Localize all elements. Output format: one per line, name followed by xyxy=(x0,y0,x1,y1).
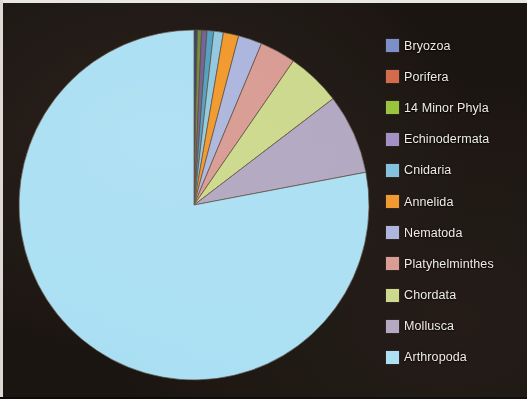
legend-item-label: Platyhelminthes xyxy=(404,257,494,271)
legend-color-swatch xyxy=(386,164,399,177)
legend-item[interactable]: Platyhelminthes xyxy=(386,248,527,279)
frame-edge-top xyxy=(0,0,527,3)
legend-item[interactable]: Nematoda xyxy=(386,217,527,248)
chart-figure: BryozoaPorifera14 Minor PhylaEchinoderma… xyxy=(0,0,527,399)
legend-color-swatch xyxy=(386,70,399,83)
legend-item-label: Cnidaria xyxy=(404,163,451,177)
chart-legend: BryozoaPorifera14 Minor PhylaEchinoderma… xyxy=(386,30,527,373)
pie-chart-svg xyxy=(8,16,378,388)
legend-color-swatch xyxy=(386,226,399,239)
legend-item[interactable]: Annelida xyxy=(386,186,527,217)
legend-color-swatch xyxy=(386,195,399,208)
legend-color-swatch xyxy=(386,351,399,364)
pie-chart xyxy=(8,16,378,388)
legend-item-label: Echinodermata xyxy=(404,132,489,146)
legend-item[interactable]: Chordata xyxy=(386,280,527,311)
legend-item[interactable]: Bryozoa xyxy=(386,30,527,61)
legend-item[interactable]: Mollusca xyxy=(386,311,527,342)
legend-item-label: Nematoda xyxy=(404,226,462,240)
legend-item-label: Chordata xyxy=(404,288,456,302)
legend-color-swatch xyxy=(386,257,399,270)
legend-color-swatch xyxy=(386,289,399,302)
legend-item-label: Bryozoa xyxy=(404,39,451,53)
legend-color-swatch xyxy=(386,39,399,52)
legend-color-swatch xyxy=(386,101,399,114)
frame-edge-left xyxy=(0,0,3,399)
legend-item-label: Annelida xyxy=(404,195,453,209)
legend-item-label: Mollusca xyxy=(404,319,454,333)
legend-item[interactable]: 14 Minor Phyla xyxy=(386,92,527,123)
legend-item-label: 14 Minor Phyla xyxy=(404,101,489,115)
legend-item[interactable]: Porifera xyxy=(386,61,527,92)
legend-item[interactable]: Arthropoda xyxy=(386,342,527,373)
pie-slice-group xyxy=(19,30,369,380)
legend-item[interactable]: Cnidaria xyxy=(386,155,527,186)
legend-item[interactable]: Echinodermata xyxy=(386,124,527,155)
legend-color-swatch xyxy=(386,133,399,146)
legend-item-label: Arthropoda xyxy=(404,350,467,364)
legend-item-label: Porifera xyxy=(404,70,449,84)
legend-color-swatch xyxy=(386,320,399,333)
